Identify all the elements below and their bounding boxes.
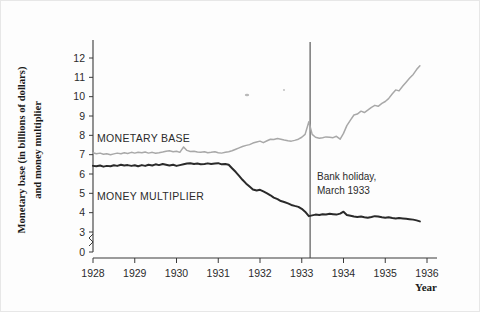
y-tick-label: 4: [79, 206, 85, 218]
monetary-base-money-multiplier-chart: 03456789101112 1928192919301931193219331…: [0, 0, 480, 312]
x-tick-label: 1929: [123, 267, 147, 279]
x-tick-label: 1936: [415, 267, 439, 279]
y-axis-title-line1: Monetary base (in billions of dollars): [16, 66, 28, 233]
x-axis-title: Year: [415, 281, 437, 293]
x-tick-label: 1933: [290, 267, 314, 279]
series-label-monetary-base: MONETARY BASE: [97, 132, 190, 144]
x-tick-label: 1934: [332, 267, 356, 279]
y-tick-label: 3: [79, 226, 85, 238]
x-tick-label: 1930: [165, 267, 189, 279]
y-tick-label: 6: [79, 168, 85, 180]
series-label-money-multiplier: MONEY MULTIPLIER: [97, 190, 204, 202]
y-tick-label: 10: [73, 90, 85, 102]
y-tick-label: 7: [79, 148, 85, 160]
x-tick-label: 1932: [248, 267, 272, 279]
y-tick-group: 03456789101112: [73, 52, 93, 258]
figure-container: 03456789101112 1928192919301931193219331…: [0, 0, 480, 312]
y-tick-label: 8: [79, 129, 85, 141]
bank-holiday-annotation-line1: Bank holiday,: [317, 171, 376, 182]
y-tick-label: 5: [79, 187, 85, 199]
y-tick-label: 11: [74, 71, 85, 83]
scan-speck: [245, 94, 249, 97]
scan-speck: [283, 89, 285, 91]
bank-holiday-annotation-line2: March 1933: [317, 185, 370, 196]
x-tick-label: 1931: [207, 267, 231, 279]
y-tick-label: 0: [79, 246, 85, 258]
x-tick-label: 1935: [374, 267, 398, 279]
x-tick-label: 1928: [81, 267, 105, 279]
plot-area: [93, 40, 427, 258]
y-axis-title-line2: and money multiplier: [32, 101, 43, 199]
y-axis-break-mark: [89, 234, 93, 246]
y-tick-label: 9: [79, 110, 85, 122]
x-tick-group: 192819291930193119321933193419351936: [81, 258, 439, 279]
y-tick-label: 12: [73, 52, 85, 64]
